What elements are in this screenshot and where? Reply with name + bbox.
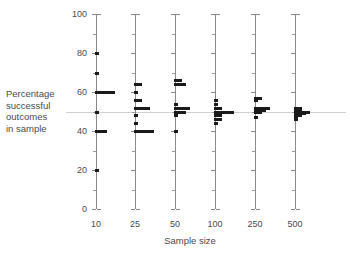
data-point bbox=[214, 103, 218, 106]
y-tick-minor bbox=[252, 190, 255, 191]
data-point bbox=[174, 114, 178, 117]
data-point bbox=[218, 118, 222, 121]
y-tick-label-0: 0 bbox=[63, 205, 87, 214]
y-tick-minor bbox=[212, 73, 215, 74]
y-tick-minor bbox=[252, 151, 255, 152]
y-tick-label-60: 60 bbox=[63, 88, 87, 97]
y-tick-major bbox=[171, 14, 175, 15]
data-point bbox=[298, 114, 302, 117]
y-tick-minor bbox=[292, 190, 295, 191]
data-point bbox=[138, 99, 142, 102]
data-point bbox=[182, 83, 186, 86]
data-point bbox=[214, 99, 218, 102]
y-tick-major bbox=[131, 170, 135, 171]
data-point bbox=[294, 118, 298, 121]
y-tick-minor bbox=[292, 73, 295, 74]
y-tick-major bbox=[291, 209, 295, 210]
y-tick-minor bbox=[93, 151, 96, 152]
data-point bbox=[186, 107, 190, 110]
y-tick-major bbox=[171, 92, 175, 93]
data-point bbox=[174, 103, 178, 106]
data-point bbox=[174, 130, 178, 133]
data-point bbox=[258, 97, 262, 100]
y-tick-major bbox=[291, 14, 295, 15]
axis-cap bbox=[296, 14, 300, 15]
axis-cap bbox=[97, 209, 101, 210]
data-point bbox=[134, 114, 138, 117]
y-tick-minor bbox=[172, 34, 175, 35]
y-tick-minor bbox=[93, 190, 96, 191]
chart-container: 102550100250500020406080100 Percentagesu… bbox=[0, 0, 350, 253]
y-tick-label-80: 80 bbox=[63, 49, 87, 58]
y-tick-minor bbox=[132, 151, 135, 152]
data-point bbox=[150, 130, 154, 133]
y-tick-major bbox=[171, 53, 175, 54]
data-point bbox=[134, 122, 138, 125]
data-point bbox=[138, 83, 142, 86]
axis-cap bbox=[256, 14, 260, 15]
y-axis-title-line: in sample bbox=[6, 123, 62, 135]
y-tick-major bbox=[211, 14, 215, 15]
x-tick-label-100: 100 bbox=[200, 220, 230, 229]
data-point bbox=[95, 169, 99, 172]
y-tick-minor bbox=[212, 190, 215, 191]
y-tick-minor bbox=[212, 34, 215, 35]
data-point bbox=[178, 79, 182, 82]
axis-cap bbox=[97, 14, 101, 15]
y-tick-major bbox=[291, 131, 295, 132]
y-tick-major bbox=[171, 170, 175, 171]
y-tick-minor bbox=[172, 190, 175, 191]
y-tick-minor bbox=[212, 151, 215, 152]
data-point bbox=[254, 116, 258, 119]
y-tick-major bbox=[251, 14, 255, 15]
y-tick-major bbox=[291, 170, 295, 171]
category-axis-25 bbox=[135, 14, 136, 209]
data-point bbox=[258, 111, 262, 114]
y-tick-major bbox=[251, 209, 255, 210]
axis-cap bbox=[136, 14, 140, 15]
x-axis-title: Sample size bbox=[60, 236, 320, 246]
y-tick-minor bbox=[132, 112, 135, 113]
y-axis-title-line: outcomes bbox=[6, 111, 62, 123]
y-tick-major bbox=[251, 92, 255, 93]
data-point bbox=[95, 111, 99, 114]
y-tick-major bbox=[251, 131, 255, 132]
y-tick-label-20: 20 bbox=[63, 166, 87, 175]
y-tick-label-40: 40 bbox=[63, 127, 87, 136]
data-point bbox=[262, 109, 266, 112]
y-tick-major bbox=[131, 53, 135, 54]
y-tick-minor bbox=[132, 190, 135, 191]
data-point bbox=[182, 111, 186, 114]
y-axis-title-line: successful bbox=[6, 100, 62, 112]
data-point bbox=[306, 111, 310, 114]
data-point bbox=[146, 107, 150, 110]
x-tick-label-250: 250 bbox=[240, 220, 270, 229]
x-tick-label-500: 500 bbox=[280, 220, 310, 229]
data-point bbox=[111, 91, 115, 94]
y-axis-title: Percentagesuccessfuloutcomesin sample bbox=[6, 88, 62, 134]
y-tick-major bbox=[251, 170, 255, 171]
data-point bbox=[254, 99, 258, 102]
data-point bbox=[214, 122, 218, 125]
y-tick-major bbox=[251, 53, 255, 54]
axis-cap bbox=[176, 209, 180, 210]
y-tick-major bbox=[131, 14, 135, 15]
y-tick-minor bbox=[252, 73, 255, 74]
axis-cap bbox=[256, 209, 260, 210]
y-tick-minor bbox=[132, 73, 135, 74]
data-point bbox=[103, 130, 107, 133]
axis-cap bbox=[296, 209, 300, 210]
data-point bbox=[95, 52, 99, 55]
y-tick-major bbox=[211, 170, 215, 171]
y-tick-major bbox=[211, 92, 215, 93]
y-tick-major bbox=[171, 209, 175, 210]
y-tick-minor bbox=[292, 151, 295, 152]
y-tick-minor bbox=[292, 34, 295, 35]
y-tick-major bbox=[291, 53, 295, 54]
y-tick-major bbox=[291, 92, 295, 93]
data-point bbox=[218, 114, 222, 117]
y-tick-minor bbox=[172, 151, 175, 152]
y-tick-major bbox=[92, 209, 96, 210]
y-tick-major bbox=[211, 209, 215, 210]
axis-cap bbox=[216, 14, 220, 15]
